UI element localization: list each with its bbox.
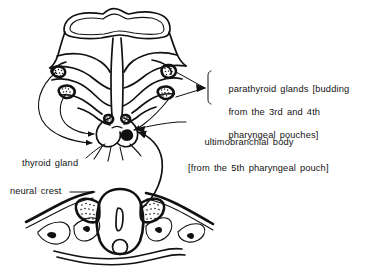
somite-left-outer-core [47,232,56,238]
thyroid-strand-2 [108,147,111,161]
right-pouch-2-lower [132,94,174,113]
ectoderm-left-wing-inner [26,198,93,228]
neural-tube-outer-wall [97,189,143,254]
ultimobranchial-label-line1: ultimobranchial body [204,137,293,147]
parathyroid-label-line1: parathyroid glands [budding [228,84,349,94]
somite-left-inner-core [83,226,90,232]
migration-arrow-inner [60,94,94,134]
midline-septum-right [121,38,123,116]
ultimobranchial-body-label: ultimobranchial body [from the 5th phary… [188,125,329,198]
somite-right-outer-core [187,233,194,239]
neural-crest-label: neural crest [10,186,61,198]
parathyroid-label-line2: from the 3rd and 4th [228,107,320,117]
midline-septum-left [111,38,113,116]
left-gland-1-tip [52,67,66,78]
parathyroid-leader-upper [176,72,205,88]
thyroid-strand-1 [94,145,103,159]
migration-arrow-outer [38,72,92,143]
ultimobranchial-body-mass [121,129,133,141]
somite-right-inner-core [155,227,162,233]
neural-tube-section-group [26,189,213,265]
parathyroid-text-bracket [208,71,211,104]
pharyngeal-apparatus-group [50,9,186,125]
anatomical-figure: parathyroid glands [budding from the 3rd… [0,0,375,273]
parathyroid-leader-arrowhead [196,84,206,92]
left-pouch-2 [52,79,111,106]
pharyngeal-lumen [70,14,164,35]
neural-tube-lumen [116,208,123,231]
thyroid-leader [86,144,105,158]
thyroid-isthmus [112,127,122,129]
notochord [113,240,128,255]
right-pouch-1 [124,53,177,72]
neural-crest-stipple [80,203,160,220]
ultimobranchial-label-line2: [from the 5th pharyngeal pouch] [188,163,329,175]
thyroid-strand-3 [120,147,123,160]
pharynx-right-wall [169,32,186,66]
thyroid-gland-label: thyroid gland [22,158,78,170]
thyroid-strand-4 [130,144,141,156]
